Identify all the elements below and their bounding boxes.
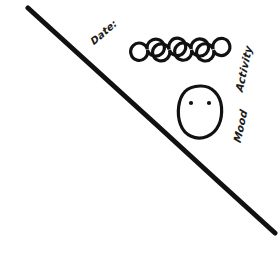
activity-circle-4[interactable] xyxy=(197,38,230,61)
mood-face-left-eye xyxy=(189,101,193,105)
mood-face-group[interactable] xyxy=(178,86,221,138)
activity-circle-1[interactable] xyxy=(131,39,165,60)
activity-circles-group xyxy=(131,38,230,61)
mood-face-right-eye xyxy=(207,101,211,105)
activity-circle-3[interactable] xyxy=(175,39,209,60)
sketch-canvas: Date: Activity Mood xyxy=(0,0,278,262)
mood-face-outline[interactable] xyxy=(178,86,221,138)
